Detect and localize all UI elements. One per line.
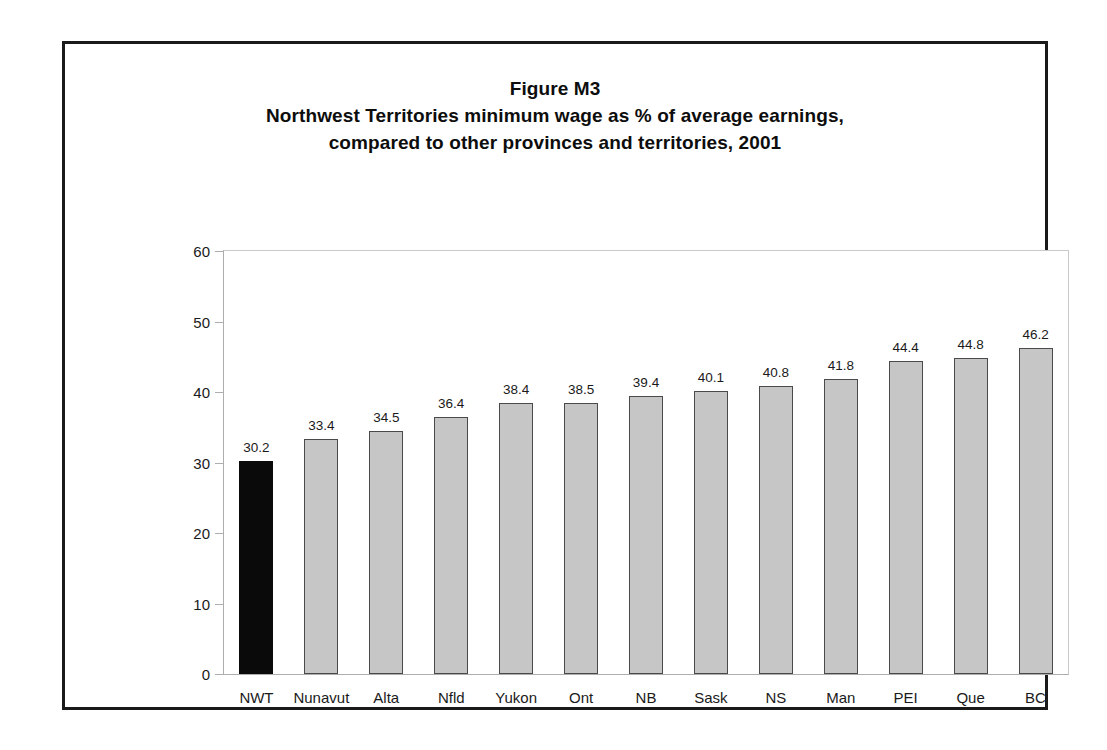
- title-line-2: Northwest Territories minimum wage as % …: [65, 103, 1045, 130]
- bar-value-label: 40.1: [698, 371, 724, 385]
- bar-sask[interactable]: [694, 391, 728, 674]
- plot-area: 0102030405060 30.2NWT33.4Nunavut34.5Alta…: [223, 250, 1069, 675]
- title-line-1: Figure M3: [65, 76, 1045, 103]
- y-axis-tick-mark: [215, 251, 224, 252]
- y-axis-tick-mark: [215, 322, 224, 323]
- bar-group[interactable]: 41.8Man: [824, 251, 858, 674]
- bar-value-label: 46.2: [1022, 328, 1048, 342]
- bar-group[interactable]: 30.2NWT: [239, 251, 273, 674]
- bars-layer: 30.2NWT33.4Nunavut34.5Alta36.4Nfld38.4Yu…: [224, 251, 1068, 674]
- y-axis-tick-mark: [215, 604, 224, 605]
- bar-value-label: 38.4: [503, 383, 529, 397]
- y-axis-tick-mark: [215, 533, 224, 534]
- x-axis-category-label: Nfld: [438, 690, 465, 705]
- title-line-3: compared to other provinces and territor…: [65, 130, 1045, 157]
- bar-value-label: 44.4: [893, 341, 919, 355]
- y-axis-tick-mark: [215, 674, 224, 675]
- bar-value-label: 39.4: [633, 376, 659, 390]
- bar-group[interactable]: 46.2BC: [1019, 251, 1053, 674]
- bar-value-label: 40.8: [763, 366, 789, 380]
- x-axis-category-label: NWT: [239, 690, 273, 705]
- bar-que[interactable]: [954, 358, 988, 674]
- bar-group[interactable]: 36.4Nfld: [434, 251, 468, 674]
- y-axis-tick-label: 20: [193, 526, 210, 541]
- bar-group[interactable]: 38.5Ont: [564, 251, 598, 674]
- y-axis-tick-label: 60: [193, 244, 210, 259]
- bar-ont[interactable]: [564, 403, 598, 674]
- bar-group[interactable]: 44.4PEI: [889, 251, 923, 674]
- bar-nunavut[interactable]: [304, 439, 338, 674]
- x-axis-category-label: Man: [826, 690, 855, 705]
- y-axis-tick-label: 0: [202, 667, 210, 682]
- bar-nwt[interactable]: [239, 461, 273, 674]
- bar-group[interactable]: 40.1Sask: [694, 251, 728, 674]
- y-axis-tick-mark: [215, 392, 224, 393]
- bar-value-label: 30.2: [243, 441, 269, 455]
- x-axis-category-label: Que: [956, 690, 984, 705]
- bar-group[interactable]: 39.4NB: [629, 251, 663, 674]
- x-axis-category-label: Ont: [569, 690, 593, 705]
- x-axis-category-label: Nunavut: [293, 690, 349, 705]
- y-axis-tick-mark: [215, 463, 224, 464]
- bar-group[interactable]: 34.5Alta: [369, 251, 403, 674]
- x-axis-category-label: PEI: [894, 690, 918, 705]
- x-axis-category-label: NB: [636, 690, 657, 705]
- x-axis-category-label: NS: [765, 690, 786, 705]
- bar-man[interactable]: [824, 379, 858, 674]
- bar-group[interactable]: 38.4Yukon: [499, 251, 533, 674]
- figure-frame: Figure M3 Northwest Territories minimum …: [62, 41, 1048, 710]
- bar-value-label: 38.5: [568, 383, 594, 397]
- bar-group[interactable]: 44.8Que: [954, 251, 988, 674]
- bar-bc[interactable]: [1019, 348, 1053, 674]
- bar-value-label: 36.4: [438, 397, 464, 411]
- x-axis-category-label: Alta: [373, 690, 399, 705]
- bar-group[interactable]: 33.4Nunavut: [304, 251, 338, 674]
- bar-nb[interactable]: [629, 396, 663, 674]
- y-axis-tick-label: 10: [193, 596, 210, 611]
- x-axis-category-label: Sask: [694, 690, 727, 705]
- bar-ns[interactable]: [759, 386, 793, 674]
- bar-yukon[interactable]: [499, 403, 533, 674]
- y-axis-tick-label: 50: [193, 314, 210, 329]
- bar-group[interactable]: 40.8NS: [759, 251, 793, 674]
- bar-value-label: 41.8: [828, 359, 854, 373]
- figure-title: Figure M3 Northwest Territories minimum …: [65, 76, 1045, 157]
- bar-alta[interactable]: [369, 431, 403, 674]
- x-axis-category-label: Yukon: [495, 690, 537, 705]
- bar-value-label: 34.5: [373, 411, 399, 425]
- bar-value-label: 33.4: [308, 419, 334, 433]
- x-axis-category-label: BC: [1025, 690, 1046, 705]
- y-axis-tick-label: 40: [193, 385, 210, 400]
- y-axis-tick-label: 30: [193, 455, 210, 470]
- bar-nfld[interactable]: [434, 417, 468, 674]
- bar-pei[interactable]: [889, 361, 923, 674]
- bar-value-label: 44.8: [957, 338, 983, 352]
